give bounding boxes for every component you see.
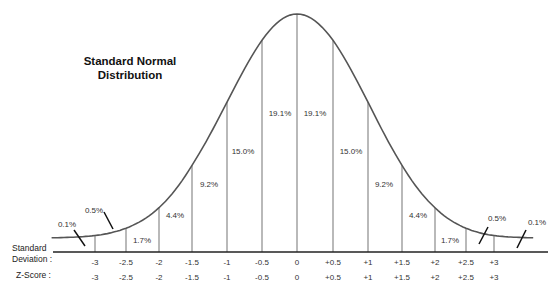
std-dev-tick-label: -0.5 bbox=[255, 258, 269, 267]
percent-label: 9.2% bbox=[200, 180, 218, 189]
chart-title: Standard Normal Distribution bbox=[78, 54, 182, 82]
percentage-labels: 0.1%0.5%1.7%4.4%9.2%15.0%19.1%19.1%15.0%… bbox=[58, 109, 546, 245]
left-inner-break-mark bbox=[104, 212, 113, 229]
percent-label: 1.7% bbox=[133, 236, 151, 245]
std-dev-tick-label: -2 bbox=[155, 258, 163, 267]
percent-label: 19.1% bbox=[269, 109, 292, 118]
z-score-tick-label: +2.5 bbox=[458, 273, 474, 282]
right-outer-break-mark bbox=[517, 230, 526, 248]
z-score-tick-labels: -3-2.5-2-1.5-1-0.50+0.5+1+1.5+2+2.5+3 bbox=[91, 273, 499, 282]
std-dev-axis-label-line2: Deviation : bbox=[12, 254, 52, 265]
figure-caption-cutoff bbox=[0, 289, 559, 296]
percent-label: 1.7% bbox=[441, 236, 459, 245]
percent-label: 19.1% bbox=[304, 109, 327, 118]
z-score-tick-label: +2 bbox=[430, 273, 440, 282]
std-dev-tick-label: +0.5 bbox=[325, 258, 341, 267]
z-score-tick-label: -3 bbox=[91, 273, 99, 282]
z-score-tick-label: -1.5 bbox=[185, 273, 199, 282]
std-dev-tick-label: -2.5 bbox=[119, 258, 133, 267]
std-dev-tick-label: +3 bbox=[489, 258, 499, 267]
percent-label: 0.1% bbox=[58, 220, 76, 229]
right-inner-break-mark bbox=[479, 227, 488, 244]
z-score-tick-label: 0 bbox=[295, 273, 300, 282]
chart-title-line1: Standard Normal bbox=[78, 54, 182, 68]
percent-label: 15.0% bbox=[340, 147, 363, 156]
sd-divider-lines bbox=[95, 14, 494, 252]
percent-label: 9.2% bbox=[375, 180, 393, 189]
z-score-tick-label: -2.5 bbox=[119, 273, 133, 282]
percent-label: 0.5% bbox=[85, 206, 103, 215]
z-score-tick-label: -1 bbox=[223, 273, 231, 282]
percent-label: 4.4% bbox=[166, 211, 184, 220]
std-dev-tick-label: 0 bbox=[295, 258, 300, 267]
chart-title-line2: Distribution bbox=[78, 68, 182, 82]
std-dev-axis-label-line1: Standard bbox=[12, 243, 47, 254]
percent-label: 0.5% bbox=[488, 214, 506, 223]
z-score-tick-label: +1 bbox=[363, 273, 373, 282]
std-dev-tick-label: -3 bbox=[91, 258, 99, 267]
percent-label: 0.1% bbox=[528, 218, 546, 227]
left-outer-break-mark bbox=[74, 230, 85, 246]
percent-label: 15.0% bbox=[232, 147, 255, 156]
std-dev-tick-label: +1.5 bbox=[394, 258, 410, 267]
z-score-tick-label: +3 bbox=[489, 273, 499, 282]
z-score-tick-label: -0.5 bbox=[255, 273, 269, 282]
z-score-tick-label: -2 bbox=[155, 273, 163, 282]
z-score-tick-label: +0.5 bbox=[325, 273, 341, 282]
std-dev-tick-label: +1 bbox=[363, 258, 373, 267]
z-score-tick-label: +1.5 bbox=[394, 273, 410, 282]
std-dev-tick-label: +2.5 bbox=[458, 258, 474, 267]
std-dev-tick-label: -1.5 bbox=[185, 258, 199, 267]
z-score-axis-label: Z-Score : bbox=[16, 270, 51, 281]
std-dev-tick-label: -1 bbox=[223, 258, 231, 267]
bell-curve bbox=[52, 14, 534, 238]
percent-label: 4.4% bbox=[409, 211, 427, 220]
normal-distribution-chart: 0.1%0.5%1.7%4.4%9.2%15.0%19.1%19.1%15.0%… bbox=[0, 0, 559, 296]
std-dev-tick-labels: -3-2.5-2-1.5-1-0.50+0.5+1+1.5+2+2.5+3 bbox=[91, 258, 499, 267]
std-dev-tick-label: +2 bbox=[430, 258, 440, 267]
